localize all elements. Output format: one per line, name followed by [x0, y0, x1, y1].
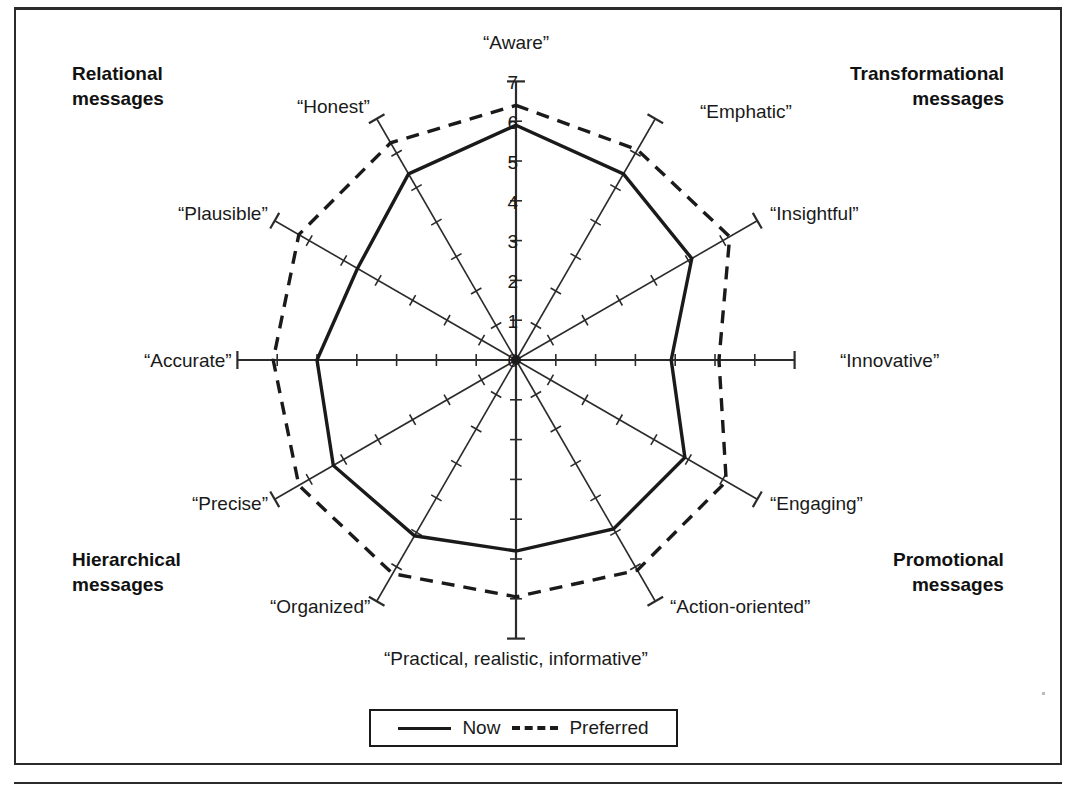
axis-tick-mark — [369, 597, 385, 606]
axis-tick-mark — [375, 434, 381, 444]
axis-tick-mark — [444, 315, 450, 325]
axis-tick-mark — [270, 492, 279, 508]
quadrant-label-line2: messages — [850, 87, 1004, 112]
axis-label-1: “Emphatic” — [700, 101, 792, 123]
quadrant-label-transformational: Transformationalmessages — [850, 62, 1004, 111]
radar-plot-area — [0, 0, 1076, 804]
axis-tick-mark — [491, 391, 501, 397]
quadrant-label-line1: Hierarchical — [72, 548, 181, 573]
axis-label-9: “Accurate” — [144, 350, 232, 372]
radial-tick-7: 7 — [494, 72, 518, 94]
axis-tick-mark — [306, 474, 312, 484]
axis-label-3: “Innovative” — [840, 350, 939, 372]
axis-label-5: “Action-oriented” — [670, 596, 810, 618]
axis-tick-mark — [648, 114, 664, 123]
axis-tick-mark — [444, 395, 450, 405]
radial-tick-0: 0 — [494, 350, 518, 372]
radar-axis-line — [275, 221, 516, 360]
axis-tick-mark — [270, 213, 279, 229]
legend-label-now: Now — [462, 717, 500, 739]
radial-tick-2: 2 — [494, 271, 518, 293]
axis-label-11: “Honest” — [297, 96, 370, 118]
quadrant-label-line1: Promotional — [893, 548, 1004, 573]
axis-tick-mark — [616, 415, 622, 425]
legend-label-preferred: Preferred — [569, 717, 648, 739]
axis-tick-mark — [551, 426, 561, 432]
quadrant-label-promotional: Promotionalmessages — [893, 548, 1004, 597]
axis-tick-mark — [479, 375, 485, 385]
axis-tick-mark — [616, 295, 622, 305]
axis-tick-mark — [651, 434, 657, 444]
axis-label-7: “Organized” — [270, 596, 370, 618]
axis-tick-mark — [547, 375, 553, 385]
axis-tick-mark — [547, 335, 553, 345]
axis-tick-mark — [590, 495, 600, 501]
axis-label-0: “Aware” — [483, 32, 549, 54]
axis-tick-mark — [391, 150, 401, 156]
axis-tick-mark — [341, 454, 347, 464]
axis-label-2: “Insightful” — [770, 203, 859, 225]
axis-label-8: “Precise” — [192, 493, 268, 515]
axis-tick-mark — [431, 495, 441, 501]
axis-tick-mark — [571, 460, 581, 466]
axis-tick-mark — [479, 335, 485, 345]
axis-tick-mark — [610, 185, 620, 191]
axis-tick-mark — [720, 235, 726, 245]
quadrant-label-line2: messages — [893, 573, 1004, 598]
axis-tick-mark — [411, 185, 421, 191]
radial-tick-4: 4 — [494, 192, 518, 214]
radar-series-now — [317, 125, 692, 551]
axis-label-4: “Engaging” — [770, 493, 863, 515]
axis-tick-mark — [651, 275, 657, 285]
radar-chart-figure: 76543210 “Aware”“Emphatic”“Insightful”“I… — [0, 0, 1076, 804]
legend-item-now: Now — [398, 717, 500, 739]
dashed-line-icon — [512, 726, 558, 730]
axis-label-6: “Practical, realistic, informative” — [384, 648, 648, 670]
solid-line-icon — [398, 727, 451, 730]
quadrant-label-line1: Relational — [72, 62, 164, 87]
axis-tick-mark — [753, 213, 762, 229]
page-speck — [1042, 692, 1045, 695]
radial-tick-6: 6 — [494, 112, 518, 134]
axis-label-10: “Plausible” — [178, 203, 268, 225]
axis-tick-mark — [590, 219, 600, 225]
quadrant-label-relational: Relationalmessages — [72, 62, 164, 111]
axis-tick-mark — [369, 114, 385, 123]
axis-tick-mark — [410, 295, 416, 305]
axis-tick-mark — [306, 235, 312, 245]
quadrant-label-line2: messages — [72, 87, 164, 112]
radar-axis-line — [377, 360, 516, 601]
quadrant-label-line2: messages — [72, 573, 181, 598]
axis-tick-mark — [531, 323, 541, 329]
axis-tick-mark — [341, 255, 347, 265]
axis-tick-mark — [471, 288, 481, 294]
radial-tick-5: 5 — [494, 152, 518, 174]
chart-legend: Now Preferred — [369, 709, 678, 747]
axis-tick-mark — [753, 492, 762, 508]
axis-tick-mark — [471, 426, 481, 432]
radar-axis-line — [516, 360, 655, 601]
axis-tick-mark — [531, 391, 541, 397]
axis-tick-mark — [410, 415, 416, 425]
legend-item-preferred: Preferred — [512, 717, 648, 739]
axis-tick-mark — [648, 597, 664, 606]
radial-tick-1: 1 — [494, 311, 518, 333]
axis-tick-mark — [451, 254, 461, 260]
axis-tick-mark — [582, 395, 588, 405]
radial-tick-3: 3 — [494, 231, 518, 253]
axis-tick-mark — [431, 219, 441, 225]
quadrant-label-hierarchical: Hierarchicalmessages — [72, 548, 181, 597]
axis-tick-mark — [391, 564, 401, 570]
axis-tick-mark — [571, 254, 581, 260]
axis-tick-mark — [375, 275, 381, 285]
axis-tick-mark — [582, 315, 588, 325]
radar-axis-line — [275, 360, 516, 499]
axis-tick-mark — [451, 460, 461, 466]
axis-tick-mark — [551, 288, 561, 294]
quadrant-label-line1: Transformational — [850, 62, 1004, 87]
